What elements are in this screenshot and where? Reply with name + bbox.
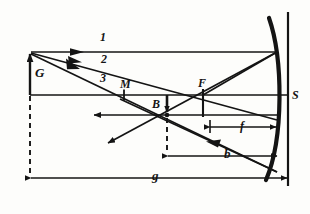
focal-point-label: F [198,77,206,89]
dashed-projection-lines [30,96,167,176]
image-distance-label: b [224,147,231,160]
vertex-point-label: M [120,78,131,90]
ray-3-label: 3 [100,72,106,84]
incident-ray-1-arrowhead [70,48,84,56]
image-point-b [165,113,170,118]
object-distance-label: g [152,169,159,182]
optics-ray-diagram: 1 2 3 G M F B S f b g [0,0,310,214]
image-group [165,95,170,117]
focal-length-label: f [240,120,244,132]
reflected-ray-3 [120,99,277,172]
ray-2-label: 2 [101,53,107,65]
object-height-label: G [35,66,44,79]
mirror-group [266,12,288,186]
ray-1-label: 1 [100,31,106,43]
ray-f-to-mirror [203,52,277,95]
reflected-ray-1 [108,52,277,143]
mirror-label: S [292,89,299,101]
dimension-lines-group [31,120,287,178]
image-point-label: B [152,98,160,110]
